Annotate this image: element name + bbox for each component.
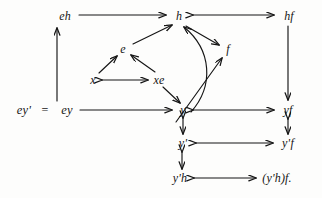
node-y: y <box>180 103 186 118</box>
node-y-prime: y' <box>179 136 187 151</box>
node-f: f <box>226 42 230 57</box>
node-hf: hf <box>284 9 294 24</box>
node-xe: xe <box>153 73 164 88</box>
node-eh: eh <box>59 9 71 24</box>
edge-h-to-f <box>186 26 219 45</box>
diagram-arrows-layer <box>0 0 322 198</box>
edge-x-to-e <box>99 56 117 73</box>
node-y-prime-h: y'h <box>173 171 188 186</box>
equality-sign: = <box>42 103 49 118</box>
node-ey-prime: ey' <box>17 103 31 118</box>
node-x: x <box>90 73 96 88</box>
edge-y-to-h-curved <box>184 27 207 112</box>
node-yf: yf <box>283 103 292 118</box>
node-y-prime-f: y'f <box>282 136 294 151</box>
node-h: h <box>176 9 182 24</box>
node-e: e <box>120 42 126 57</box>
node-ey: ey <box>61 103 73 118</box>
edge-xe-to-e <box>131 55 155 72</box>
edge-e-to-h <box>133 25 172 44</box>
diagram-canvas: eh h hf e f x xe ey' = ey y yf y' y'f y'… <box>0 0 322 198</box>
edge-xe-to-y <box>163 87 180 103</box>
node-y-prime-h-f: (y'h)f. <box>262 171 292 186</box>
